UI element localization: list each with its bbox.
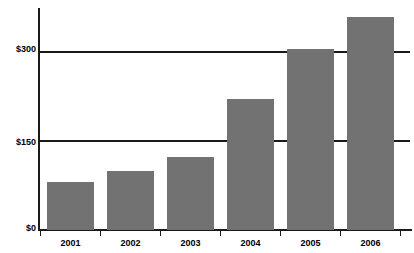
y-tick-label-150: $150 [2, 138, 36, 147]
x-tick-mark-5 [340, 231, 341, 236]
x-tick-label-2006: 2006 [347, 238, 394, 248]
x-tick-mark-1 [100, 231, 101, 236]
x-tick-label-2004: 2004 [227, 238, 274, 248]
bar-2001[interactable] [47, 182, 94, 230]
x-tick-mark-3 [220, 231, 221, 236]
bar-2003[interactable] [167, 157, 214, 230]
x-tick-mark-end [400, 231, 401, 236]
x-tick-mark-2 [160, 231, 161, 236]
y-tick-label-0: $0 [2, 224, 36, 233]
x-tick-label-2005: 2005 [287, 238, 334, 248]
x-tick-mark-start [40, 231, 41, 236]
y-tick-label-300: $300 [2, 45, 36, 54]
plot-area [38, 8, 410, 230]
bar-chart: $300 $150 $0 2001 2002 2003 2004 2005 20… [0, 0, 414, 253]
x-tick-label-2002: 2002 [107, 238, 154, 248]
x-tick-mark-4 [280, 231, 281, 236]
bar-2005[interactable] [287, 49, 334, 230]
y-tick-150: $150 [0, 138, 36, 147]
y-tick-300: $300 [0, 45, 36, 54]
bar-2006[interactable] [347, 17, 394, 230]
x-tick-label-2001: 2001 [47, 238, 94, 248]
y-tick-0: $0 [0, 224, 36, 233]
bar-2004[interactable] [227, 99, 274, 230]
bar-2002[interactable] [107, 171, 154, 230]
x-tick-label-2003: 2003 [167, 238, 214, 248]
